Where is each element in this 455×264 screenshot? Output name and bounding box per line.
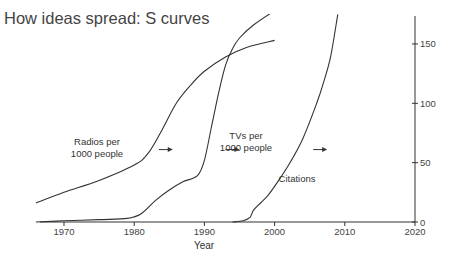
series-group (36, 11, 338, 222)
x-tick-label: 2000 (264, 226, 285, 237)
citations-label-line: Citations (279, 173, 316, 184)
chart-svg: 197019801990200020102020050100150 Radios… (0, 0, 455, 264)
x-tick-label: 1970 (53, 226, 74, 237)
arrowhead-icon (168, 147, 173, 152)
y-tick-label: 0 (420, 217, 425, 228)
y-tick-label: 50 (420, 157, 431, 168)
x-tick-label: 2020 (404, 226, 425, 237)
x-tick-label: 1980 (124, 226, 145, 237)
tvs-label-line: TVs per (229, 130, 262, 141)
arrowhead-icon (322, 147, 327, 152)
y-tick-label: 100 (420, 98, 436, 109)
radios-label-line: Radios per (74, 136, 120, 147)
tvs-line (36, 11, 275, 222)
radios-line (36, 40, 275, 203)
x-axis-label: Year (194, 240, 215, 251)
y-tick-label: 150 (420, 38, 436, 49)
x-tick-label: 1990 (194, 226, 215, 237)
x-tick-label: 2010 (334, 226, 355, 237)
radios-label-line: 1000 people (71, 148, 123, 159)
tvs-label-line: 1000 people (220, 142, 272, 153)
citations-line (233, 14, 338, 222)
axes: 197019801990200020102020050100150 (40, 16, 436, 237)
